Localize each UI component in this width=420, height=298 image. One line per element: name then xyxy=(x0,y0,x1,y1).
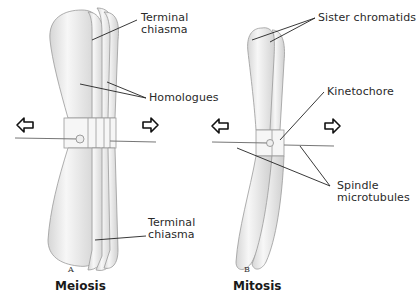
panel-title-mitosis: Mitosis xyxy=(233,279,281,293)
label-terminal-chiasma-top: Terminal chiasma xyxy=(141,12,188,36)
mitosis-chromosome xyxy=(236,28,285,270)
spindle-right-b xyxy=(284,145,334,146)
label-line: chiasma xyxy=(148,229,195,241)
label-sister-chromatids: Sister chromatids xyxy=(318,12,416,24)
diagram-canvas xyxy=(0,0,420,298)
spindle-right-a xyxy=(110,141,156,142)
label-homologues: Homologues xyxy=(149,92,219,104)
label-line: chiasma xyxy=(141,24,188,36)
panel-title-meiosis: Meiosis xyxy=(55,279,106,293)
panel-letter-a: A xyxy=(68,265,74,274)
panel-letter-b: B xyxy=(244,265,250,274)
label-kinetochore: Kinetochore xyxy=(327,86,394,98)
kinetochore-b xyxy=(267,140,274,147)
arrow-right-icon xyxy=(143,118,158,132)
label-terminal-chiasma-bottom: Terminal chiasma xyxy=(148,217,195,241)
label-spindle-microtubules: Spindle microtubules xyxy=(337,180,410,204)
arrow-left-icon xyxy=(17,118,33,132)
arrow-left-icon xyxy=(212,119,228,133)
kinetochore-a xyxy=(76,135,84,143)
arrow-right-icon xyxy=(325,119,340,133)
label-line: microtubules xyxy=(337,192,410,204)
